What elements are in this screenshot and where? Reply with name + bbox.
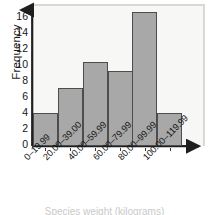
y-tick-8: 8	[12, 75, 28, 85]
y-tick-6: 6	[12, 91, 28, 101]
y-tick-14: 14	[12, 27, 28, 37]
histogram-figure: Frequency 16 14 12 10 8 6 4 2 0 0–19.99 …	[0, 0, 209, 215]
y-tick-2: 2	[12, 123, 28, 133]
y-tick-0: 0	[12, 139, 28, 149]
bar-series	[33, 4, 182, 146]
y-tick-12: 12	[12, 43, 28, 53]
y-tick-labels: 16 14 12 10 8 6 4 2 0	[11, 0, 28, 215]
x-tick-mark-5	[170, 148, 171, 151]
y-tick-16: 16	[12, 11, 28, 21]
y-tick-4: 4	[12, 107, 28, 117]
y-tick-10: 10	[12, 59, 28, 69]
cutoff-x-axis-caption: Species weight (kilograms)	[0, 206, 209, 215]
